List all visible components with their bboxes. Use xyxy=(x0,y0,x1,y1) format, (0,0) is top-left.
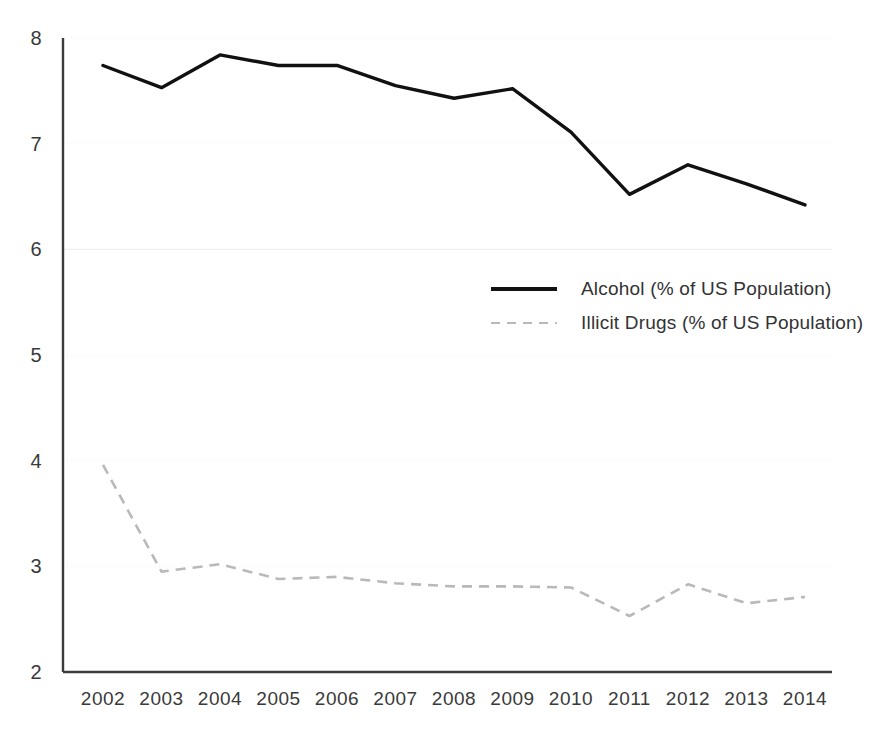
x-tick-2009: 2009 xyxy=(482,688,544,710)
dashed-line-sample-icon xyxy=(485,315,563,331)
legend-item-illicit-drugs: Illicit Drugs (% of US Population) xyxy=(485,306,863,340)
y-tick-8: 8 xyxy=(8,27,42,50)
x-tick-2010: 2010 xyxy=(540,688,602,710)
legend-label-illicit-drugs: Illicit Drugs (% of US Population) xyxy=(581,312,863,334)
y-tick-7: 7 xyxy=(8,132,42,155)
series-line-alcohol xyxy=(103,55,805,205)
series-line-illicit-drugs xyxy=(103,465,805,616)
legend-label-alcohol: Alcohol (% of US Population) xyxy=(581,278,832,300)
legend-item-alcohol: Alcohol (% of US Population) xyxy=(485,272,863,306)
x-tick-2013: 2013 xyxy=(716,688,778,710)
x-tick-2011: 2011 xyxy=(599,688,661,710)
y-tick-3: 3 xyxy=(8,555,42,578)
x-tick-2012: 2012 xyxy=(657,688,719,710)
x-tick-2014: 2014 xyxy=(774,688,836,710)
y-tick-2: 2 xyxy=(8,661,42,684)
x-tick-2002: 2002 xyxy=(72,688,134,710)
x-tick-2005: 2005 xyxy=(248,688,310,710)
y-tick-4: 4 xyxy=(8,449,42,472)
x-tick-2004: 2004 xyxy=(189,688,251,710)
line-chart: 2345678 20022003200420052006200720082009… xyxy=(0,0,875,734)
x-tick-2006: 2006 xyxy=(306,688,368,710)
y-tick-5: 5 xyxy=(8,344,42,367)
x-tick-2003: 2003 xyxy=(131,688,193,710)
plot-area xyxy=(0,0,875,734)
x-tick-2007: 2007 xyxy=(365,688,427,710)
y-tick-6: 6 xyxy=(8,238,42,261)
chart-legend: Alcohol (% of US Population) Illicit Dru… xyxy=(485,272,863,340)
solid-line-sample-icon xyxy=(485,281,563,297)
x-tick-2008: 2008 xyxy=(423,688,485,710)
